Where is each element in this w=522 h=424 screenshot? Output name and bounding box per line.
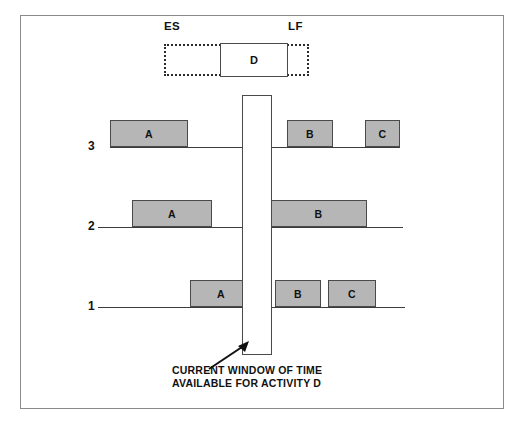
- activity-bar-B-row2: B: [270, 200, 367, 227]
- resource-row-label-1: 1: [88, 299, 95, 313]
- activity-bar-label: A: [145, 128, 153, 140]
- caption-line: AVAILABLE FOR ACTIVITY D: [172, 377, 322, 390]
- activity-bar-B-row3: B: [287, 120, 333, 147]
- activity-d-float-range: D: [164, 44, 309, 76]
- activity-bar-label: A: [217, 288, 225, 300]
- activity-bar-label: A: [168, 208, 176, 220]
- activity-bar-C-row3: C: [365, 120, 400, 147]
- activity-bar-label: B: [315, 208, 323, 220]
- early-start-label: ES: [164, 20, 180, 32]
- activity-bar-A-row3: A: [110, 120, 188, 147]
- activity-bar-label: B: [294, 288, 302, 300]
- activity-bar-label: C: [348, 288, 356, 300]
- resource-row-label-3: 3: [88, 139, 95, 153]
- caption-line: CURRENT WINDOW OF TIME: [172, 364, 322, 377]
- resource-row-label-2: 2: [88, 219, 95, 233]
- activity-d-label: D: [250, 54, 258, 66]
- figure-canvas: ES LF D 3ABC2AB1ABC CURRENT WINDOW OF TI…: [0, 0, 522, 424]
- activity-bar-C-row1: C: [328, 280, 376, 307]
- activity-bar-A-row2: A: [132, 200, 212, 227]
- activity-bar-B-row1: B: [275, 280, 321, 307]
- activity-bar-label: C: [379, 128, 387, 140]
- activity-d-duration-box: D: [220, 43, 288, 77]
- late-finish-label: LF: [288, 20, 303, 32]
- activity-bar-label: B: [306, 128, 314, 140]
- figure-caption: CURRENT WINDOW OF TIMEAVAILABLE FOR ACTI…: [172, 364, 322, 390]
- current-window-of-time-bar: [242, 95, 272, 355]
